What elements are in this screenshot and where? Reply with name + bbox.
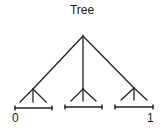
axis-label-start: 0 (12, 112, 19, 124)
edge-right-leaf-2 (134, 88, 147, 100)
edge-root-right (83, 36, 134, 88)
edge-middle-leaf-2 (83, 89, 96, 101)
tree-edges (20, 36, 147, 102)
edge-root-left (33, 36, 83, 89)
interval-bars (15, 105, 153, 110)
edge-right-leaf-0 (121, 88, 134, 100)
edge-left-leaf-2 (33, 89, 46, 102)
axis-label-end: 1 (147, 112, 154, 124)
edge-left-leaf-0 (20, 89, 33, 102)
tree-diagram (0, 0, 164, 128)
edge-middle-leaf-0 (71, 89, 83, 101)
